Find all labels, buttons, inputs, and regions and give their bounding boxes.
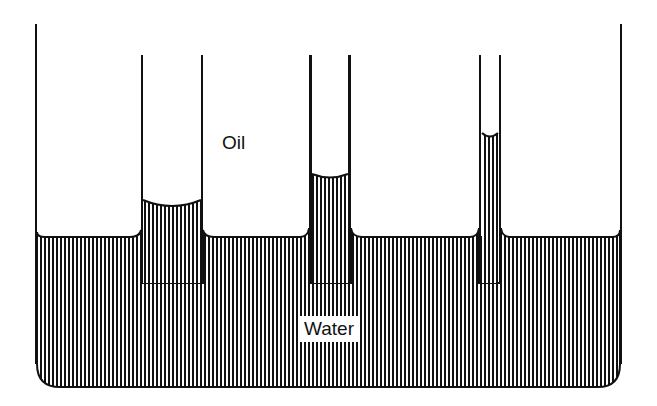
tube-wide-water: [143, 200, 201, 283]
capillary-diagram: [0, 0, 657, 406]
tube-medium-water: [312, 174, 348, 283]
water-label: Water: [300, 316, 358, 342]
tube-narrow-water: [482, 133, 498, 283]
oil-label: Oil: [222, 132, 245, 154]
